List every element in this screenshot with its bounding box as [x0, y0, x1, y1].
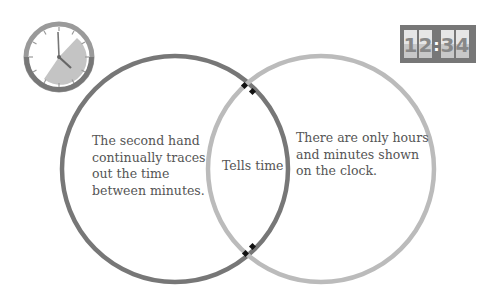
- analog-clock-icon: [26, 24, 92, 90]
- right-line-1: There are only hours: [296, 130, 436, 147]
- digit-2: 2: [419, 33, 433, 57]
- digit-1: 1: [404, 33, 418, 57]
- right-set-description: There are only hours and minutes shown o…: [296, 130, 436, 180]
- digit-colon: :: [433, 36, 439, 55]
- right-line-3: on the clock.: [296, 163, 436, 180]
- left-line-3: out the time: [92, 166, 232, 183]
- left-line-1: The second hand: [92, 133, 232, 150]
- left-line-2: continually traces: [92, 150, 232, 167]
- right-line-2: and minutes shown: [296, 147, 436, 164]
- intersection-label: Tells time: [222, 158, 282, 175]
- left-set-description: The second hand continually traces out t…: [92, 133, 232, 199]
- left-line-4: between minutes.: [92, 183, 232, 200]
- digit-4: 4: [456, 33, 470, 57]
- digital-clock-icon: 1 2 : 3 4: [400, 25, 476, 63]
- digit-3: 3: [441, 33, 455, 57]
